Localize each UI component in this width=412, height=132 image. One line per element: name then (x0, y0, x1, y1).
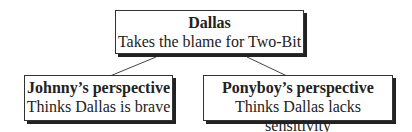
child-node-title: Johnny’s perspective (25, 79, 172, 97)
child-node-subtitle: Thinks Dallas is brave (25, 97, 172, 116)
child-node-ponyboy: Ponyboy’s perspective Thinks Dallas lack… (203, 75, 393, 121)
connector-root-johnny (110, 57, 156, 76)
root-node-subtitle: Takes the blame for Two-Bit (116, 32, 303, 51)
root-node-dallas: Dallas Takes the blame for Two-Bit (115, 10, 304, 54)
connector-root-ponyboy (247, 57, 287, 76)
root-node-title: Dallas (116, 14, 303, 32)
child-node-title: Ponyboy’s perspective (204, 79, 392, 97)
child-node-subtitle: Thinks Dallas lacks sensitivity (204, 97, 392, 132)
child-node-johnny: Johnny’s perspective Thinks Dallas is br… (24, 75, 173, 121)
